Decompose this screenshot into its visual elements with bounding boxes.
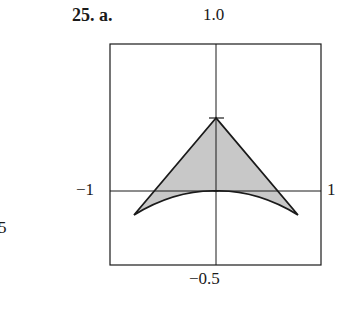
plot-area — [0, 0, 347, 309]
